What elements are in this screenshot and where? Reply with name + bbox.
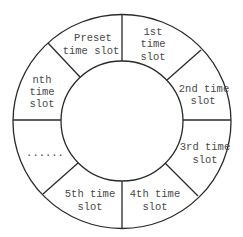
segment-slot-1-line-2: time	[140, 38, 165, 50]
segment-slot-2: 2nd time slot	[179, 83, 229, 107]
segment-slot-n: nth time slot	[29, 74, 54, 110]
segment-preset-line-1: Preset	[74, 32, 112, 44]
segment-slot-1-line-1: 1st	[144, 26, 163, 38]
segment-slot-3-line-2: slot	[192, 154, 217, 166]
segment-preset-line-2: time slot	[63, 45, 120, 57]
segment-ellipsis-line-1: ......	[26, 147, 64, 159]
segment-slot-4-line-1: 4th time	[130, 188, 180, 200]
segment-slot-5-line-1: 5th time	[65, 188, 115, 200]
segment-slot-1-line-3: slot	[140, 51, 165, 63]
divider-upper-right	[167, 50, 201, 80]
segment-slot-3-line-1: 3rd time	[180, 141, 230, 153]
segment-slot-1: 1st time slot	[140, 26, 165, 63]
segment-ellipsis: ......	[26, 147, 64, 159]
segment-slot-n-line-1: nth	[33, 74, 52, 86]
segment-slot-4: 4th time slot	[130, 188, 180, 213]
time-slot-ring-diagram: Preset time slot 1st time slot 2nd time …	[0, 0, 243, 237]
segment-slot-2-line-2: slot	[190, 95, 215, 107]
segment-slot-4-line-2: slot	[142, 201, 167, 213]
segment-preset: Preset time slot	[63, 32, 120, 57]
segment-slot-n-line-3: slot	[29, 98, 54, 110]
segment-slot-5-line-2: slot	[77, 201, 102, 213]
segment-slot-5: 5th time slot	[65, 188, 115, 213]
inner-ring	[61, 61, 183, 181]
segment-slot-2-line-1: 2nd time	[179, 83, 229, 95]
segment-slot-n-line-2: time	[29, 86, 54, 98]
